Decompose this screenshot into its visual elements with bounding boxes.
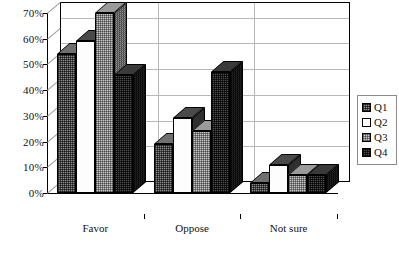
y-tick-label: 70% <box>2 7 44 19</box>
bar-q2-oppose <box>173 118 192 193</box>
x-tick-label-favor: Favor <box>82 222 108 234</box>
bar-front-face <box>250 183 269 193</box>
legend-swatch-q2 <box>362 118 371 127</box>
bar-front-face <box>211 72 230 193</box>
legend-item-q4[interactable]: Q4 <box>362 145 392 160</box>
bar-q4-favor <box>114 75 133 193</box>
bar-q1-not-sure <box>250 183 269 193</box>
bar-front-face <box>269 165 288 193</box>
x-axis-line <box>47 193 338 194</box>
bar-front-face <box>57 54 76 193</box>
bar-q4-not-sure <box>307 175 326 193</box>
axis-depth-connector <box>47 28 61 40</box>
y-tick-label: 10% <box>2 161 44 173</box>
bar-side-face <box>133 64 146 193</box>
legend-item-q3[interactable]: Q3 <box>362 130 392 145</box>
legend-label: Q4 <box>374 147 387 158</box>
bar-front-face <box>95 13 114 193</box>
plot-area <box>47 13 337 193</box>
legend-item-q2[interactable]: Q2 <box>362 115 392 130</box>
x-tick-mark <box>240 214 241 219</box>
legend-item-q1[interactable]: Q1 <box>362 100 392 115</box>
x-tick-mark <box>144 214 145 219</box>
bar-q1-oppose <box>154 144 173 193</box>
bar-front-face <box>192 131 211 193</box>
legend-swatch-q3 <box>362 133 371 142</box>
bar-front-face <box>76 41 95 193</box>
legend-label: Q2 <box>374 117 387 128</box>
x-tick-mark <box>337 214 338 219</box>
bar-chart: 0%10%20%30%40%50%60%70% FavorOpposeNot s… <box>0 0 399 260</box>
y-axis: 0%10%20%30%40%50%60%70% <box>0 0 44 260</box>
bar-q3-oppose <box>192 131 211 193</box>
y-tick-label: 0% <box>2 187 44 199</box>
bar-front-face <box>288 175 307 193</box>
y-tick-label: 50% <box>2 58 44 70</box>
bar-front-face <box>173 118 192 193</box>
y-tick-label: 60% <box>2 33 44 45</box>
legend-swatch-q4 <box>362 148 371 157</box>
y-tick-label: 30% <box>2 110 44 122</box>
bar-front-face <box>154 144 173 193</box>
bar-side-face <box>230 61 243 193</box>
x-axis: FavorOpposeNot sure <box>0 222 399 242</box>
bar-front-face <box>307 175 326 193</box>
category-separator <box>254 3 255 181</box>
chart-legend: Q1Q2Q3Q4 <box>357 95 397 165</box>
bar-q3-not-sure <box>288 175 307 193</box>
x-tick-label-oppose: Oppose <box>175 222 209 234</box>
y-tick-label: 20% <box>2 136 44 148</box>
x-tick-label-not-sure: Not sure <box>270 222 308 234</box>
bar-q4-oppose <box>211 72 230 193</box>
legend-swatch-q1 <box>362 103 371 112</box>
axis-depth-connector <box>47 2 61 14</box>
bar-q1-favor <box>57 54 76 193</box>
bar-q3-favor <box>95 13 114 193</box>
y-tick-label: 40% <box>2 84 44 96</box>
bar-front-face <box>114 75 133 193</box>
legend-label: Q3 <box>374 132 387 143</box>
bar-q2-not-sure <box>269 165 288 193</box>
legend-label: Q1 <box>374 102 387 113</box>
bar-q2-favor <box>76 41 95 193</box>
